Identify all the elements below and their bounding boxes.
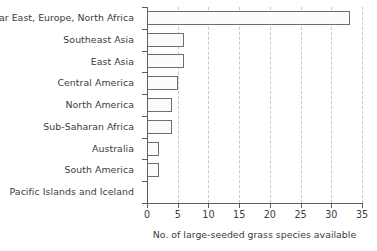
bar-row [147,159,362,181]
x-tick-5 [178,203,179,208]
y-tick-5 [142,116,147,117]
y-axis-label-sub-saharan-africa: Sub-Saharan Africa [0,116,140,138]
bar-row [147,72,362,94]
x-tick-label-15: 15 [233,209,245,220]
x-tick-10 [208,203,209,208]
y-tick-3 [142,72,147,73]
bars-layer [147,7,362,203]
y-axis-label-east-asia: East Asia [0,51,140,73]
plot-area [147,7,362,203]
bar-sub-saharan-africa [147,120,172,134]
x-tick-label-35: 35 [356,209,368,220]
x-tick-30 [331,203,332,208]
bar-east-asia [147,54,184,68]
x-tick-label-5: 5 [175,209,181,220]
x-tick-label-10: 10 [202,209,214,220]
bar-chart-figure: Near East, Europe, North Africa Southeas… [0,0,377,251]
y-axis-category-labels: Near East, Europe, North Africa Southeas… [0,7,140,203]
x-tick-0 [147,203,148,208]
bar-australia [147,142,159,156]
y-axis-label-southeast-asia: Southeast Asia [0,29,140,51]
y-axis-label-near-east-europe-north-africa: Near East, Europe, North Africa [0,7,140,29]
x-tick-label-25: 25 [294,209,306,220]
x-axis-line [147,203,362,204]
y-tick-4 [142,94,147,95]
y-axis-line [147,7,148,203]
y-tick-0 [142,7,147,8]
y-axis-label-pacific-islands-and-iceland: Pacific Islands and Iceland [0,181,140,203]
y-axis-label-central-america: Central America [0,72,140,94]
bar-row [147,29,362,51]
y-tick-1 [142,29,147,30]
x-tick-20 [270,203,271,208]
x-tick-15 [239,203,240,208]
x-tick-label-20: 20 [264,209,276,220]
x-axis-title: No. of large-seeded grass species availa… [147,229,362,240]
bar-row [147,51,362,73]
bar-row [147,94,362,116]
y-tick-6 [142,138,147,139]
y-tick-7 [142,159,147,160]
y-tick-9 [142,203,147,204]
y-axis-label-south-america: South America [0,159,140,181]
y-axis-label-north-america: North America [0,94,140,116]
bar-row [147,7,362,29]
y-axis-label-australia: Australia [0,138,140,160]
bar-row [147,138,362,160]
x-tick-35 [362,203,363,208]
y-tick-8 [142,181,147,182]
y-tick-2 [142,51,147,52]
bar-near-east-europe-north-africa [147,11,350,25]
x-tick-label-30: 30 [325,209,337,220]
bar-southeast-asia [147,33,184,47]
bar-north-america [147,98,172,112]
x-tick-label-0: 0 [144,209,150,220]
x-tick-25 [301,203,302,208]
bar-central-america [147,76,178,90]
gridline-35 [362,7,363,203]
bar-row [147,116,362,138]
bar-south-america [147,163,159,177]
bar-row [147,181,362,203]
